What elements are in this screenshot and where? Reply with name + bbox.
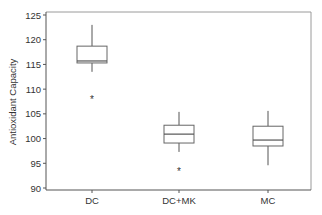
outlier-marker: *: [90, 94, 94, 105]
y-tick-label: 110: [26, 84, 41, 95]
y-tick-label: 125: [25, 10, 41, 21]
box-mc: [253, 111, 283, 165]
box-dc: *: [77, 25, 107, 105]
x-axis: DCDC+MKMC: [85, 190, 275, 206]
box-plot-chart: 9095100105110115120125 DCDC+MKMC ** Anti…: [0, 0, 322, 215]
boxes: **: [77, 25, 283, 177]
iqr-box: [253, 126, 283, 146]
y-tick-label: 100: [25, 133, 41, 144]
box-dc-mk: *: [164, 112, 194, 177]
y-tick-label: 95: [30, 158, 41, 169]
y-tick-label: 105: [25, 108, 41, 119]
y-axis: 9095100105110115120125: [25, 10, 46, 194]
outlier-marker: *: [177, 166, 181, 177]
x-tick-label: DC: [85, 195, 99, 206]
y-axis-title: Antioxidant Capacity: [7, 58, 18, 145]
x-tick-label: DC+MK: [162, 195, 196, 206]
plot-frame: [46, 12, 311, 190]
x-tick-label: MC: [261, 195, 276, 206]
y-tick-label: 120: [25, 34, 41, 45]
y-tick-label: 90: [30, 183, 41, 194]
y-tick-label: 115: [26, 59, 41, 70]
